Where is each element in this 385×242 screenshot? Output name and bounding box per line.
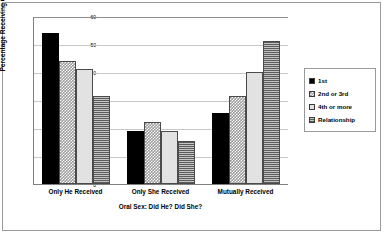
legend-swatch-relationship-icon (309, 117, 315, 123)
legend-label-relationship: Relationship (318, 116, 355, 123)
x-tick-label-mutually-received: Mutually Received (203, 188, 288, 195)
bar-mutual-2nd-or-3rd (229, 96, 246, 184)
legend-label-1st: 1st (318, 77, 327, 84)
bar-group-only-she-received (119, 17, 204, 184)
bar-she-2nd-or-3rd (144, 122, 161, 184)
legend-swatch-1st-icon (309, 78, 315, 84)
bar-group-mutually-received (203, 17, 288, 184)
bar-he-1st (42, 33, 59, 184)
bar-chart: Percentage Receiving Oral Sex 60 50 40 3… (0, 0, 385, 242)
bar-he-4th-or-more (76, 69, 93, 184)
bar-group-only-he-received (34, 17, 119, 184)
legend-item-2nd-or-3rd: 2nd or 3rd (309, 87, 371, 100)
y-axis-title: Percentage Receiving Oral Sex (0, 0, 6, 108)
legend-swatch-2nd-or-3rd-icon (309, 91, 315, 97)
bar-she-1st (127, 131, 144, 184)
legend-item-4th-or-more: 4th or more (309, 100, 371, 113)
bar-she-4th-or-more (161, 131, 178, 184)
chart-legend: 1st 2nd or 3rd 4th or more Relationship (304, 68, 376, 132)
bar-mutual-4th-or-more (246, 72, 263, 184)
legend-item-relationship: Relationship (309, 113, 371, 126)
bar-mutual-relationship (263, 41, 280, 184)
x-tick-label-only-he-received: Only He Received (33, 188, 118, 195)
x-tick-label-only-she-received: Only She Received (118, 188, 203, 195)
x-tick-labels: Only He Received Only She Received Mutua… (33, 188, 288, 195)
bar-mutual-1st (212, 113, 229, 184)
bar-he-relationship (93, 96, 110, 184)
bar-she-relationship (178, 141, 195, 184)
bar-groups (34, 17, 288, 184)
legend-item-1st: 1st (309, 74, 371, 87)
plot-area (33, 17, 288, 185)
x-axis-title: Oral Sex: Did He? Did She? (33, 203, 288, 210)
bar-he-2nd-or-3rd (59, 61, 76, 184)
legend-swatch-4th-or-more-icon (309, 104, 315, 110)
legend-label-4th-or-more: 4th or more (318, 103, 352, 110)
legend-label-2nd-or-3rd: 2nd or 3rd (318, 90, 348, 97)
